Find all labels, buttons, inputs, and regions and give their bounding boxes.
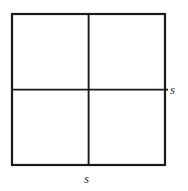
quadrant-top-right: [89, 14, 166, 90]
side-length-label-bottom: s: [84, 172, 89, 185]
square-figure-diagram: [0, 0, 188, 191]
side-length-label-right: s: [170, 83, 175, 96]
quadrant-top-left: [12, 14, 89, 90]
quadrant-bottom-left: [12, 90, 89, 166]
figure-stage: s s: [0, 0, 188, 191]
quadrant-bottom-right: [89, 90, 166, 166]
